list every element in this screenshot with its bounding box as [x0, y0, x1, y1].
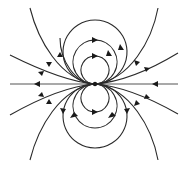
arrow-top-loop-1: [92, 53, 98, 59]
arrow-bottom-loop-1: [92, 109, 98, 115]
arrow-upper-left-1: [46, 62, 52, 67]
field-loop-bottom-2: [73, 84, 117, 128]
field-loop-top-1: [81, 56, 109, 84]
arrow-bottom-loop-3b: [124, 108, 130, 114]
field-loop-top-3: [63, 20, 127, 84]
field-loop-top-2: [73, 40, 117, 84]
arrow-top-loop-3: [118, 44, 124, 50]
arrow-bottom-loop-3: [60, 108, 66, 114]
arrow-lower-left-2: [38, 92, 44, 97]
arrow-lower-right-1: [134, 100, 140, 106]
arrow-bottom-loop-2b: [108, 112, 116, 118]
field-lines-svg: [0, 0, 190, 170]
arrow-lower-left-1: [46, 99, 52, 104]
field-loop-bottom-1: [81, 84, 109, 112]
field-line-lower-left-2: [10, 84, 95, 115]
field-line-upper-left-3: [60, 38, 95, 84]
arrow-bottom-loop-2: [70, 112, 78, 118]
axis-arrow-left: [34, 81, 40, 87]
dipole-field-diagram: [0, 0, 190, 170]
arrow-upper-right-1: [134, 60, 140, 66]
arrow-upper-left-2: [38, 71, 44, 76]
arrow-upper-right-2: [144, 67, 150, 72]
arrow-top-loop-2b: [106, 50, 112, 56]
axis-arrow-right: [152, 81, 158, 87]
dipole-center: [93, 82, 97, 86]
arrow-lower-right-2: [144, 94, 150, 99]
arrow-top-loop-2: [92, 37, 98, 43]
